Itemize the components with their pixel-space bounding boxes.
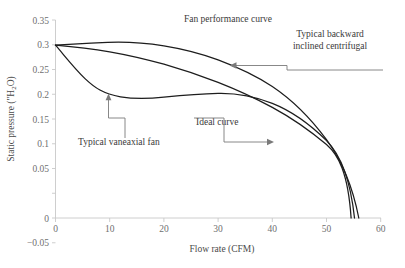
x-axis-title: Flow rate (CFM) [190, 244, 255, 255]
y-tick-label-0.1: 0.1 [37, 139, 49, 149]
x-tick-label-20: 20 [159, 224, 169, 234]
chart-title: Fan performance curve [184, 14, 272, 24]
x-tick-label-30: 30 [213, 224, 223, 234]
y-axis-title-suffix: O) [6, 76, 17, 86]
chart-figure: 0.35 0.3 0.25 0.2 0.15 0.1 0.05 0 −0.05 … [0, 0, 405, 268]
y-tick-label-0.25: 0.25 [32, 65, 49, 75]
y-tick-label-0: 0 [44, 214, 49, 224]
y-tick-label-neg0.05: −0.05 [27, 238, 49, 248]
y-tick-label-0.15: 0.15 [32, 115, 49, 125]
y-tick-label-0.2: 0.2 [37, 90, 49, 100]
x-tick-label-50: 50 [322, 224, 332, 234]
x-tick-label-40: 40 [268, 224, 278, 234]
fan-performance-chart: 0.35 0.3 0.25 0.2 0.15 0.1 0.05 0 −0.05 … [0, 0, 405, 268]
y-tick-label-0.05: 0.05 [32, 164, 49, 174]
y-tick-label-0.35: 0.35 [32, 16, 49, 26]
annotation-vaneaxial-label: Typical vaneaxial fan [78, 137, 160, 147]
y-axis-title-prefix: Static pressure ("H [6, 90, 17, 162]
annotation-ideal-label: Ideal curve [196, 117, 238, 127]
annotation-centrifugal-label-line1: Typical backward [296, 29, 364, 39]
x-tick-label-0: 0 [53, 224, 58, 234]
x-tick-label-60: 60 [376, 224, 386, 234]
annotation-centrifugal-label-line2: inclined centrifugal [293, 41, 367, 51]
x-tick-label-10: 10 [105, 224, 115, 234]
y-tick-label-0.3: 0.3 [37, 40, 49, 50]
